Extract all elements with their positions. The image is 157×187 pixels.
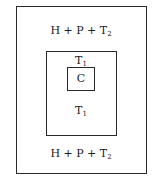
middle-label-top: T1 <box>75 54 87 68</box>
middle-label-bottom: T1 <box>75 104 87 118</box>
inner-label: C <box>77 72 85 85</box>
outer-label-bottom: H + P + T2 <box>50 147 111 161</box>
outer-label-top: H + P + T2 <box>50 24 111 38</box>
